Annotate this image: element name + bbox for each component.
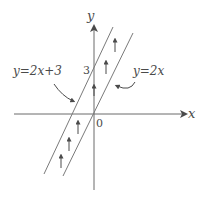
- x-axis-label: x: [188, 106, 196, 121]
- line-label-y-2x: y=2x: [132, 64, 164, 78]
- origin-label: 0: [96, 117, 103, 130]
- y-intercept-label: 3: [83, 64, 90, 77]
- pointer-arrow-left-icon: [54, 84, 73, 101]
- graph-diagram: y x 0 3 y=2x+3 y=2x: [0, 0, 208, 201]
- pointer-arrow-right-icon: [117, 82, 135, 88]
- line-y-2x-plus-3: [44, 27, 113, 174]
- line-label-y-2x-plus-3: y=2x+3: [12, 64, 62, 78]
- shift-arrows: [61, 40, 115, 168]
- y-axis-label: y: [86, 8, 95, 23]
- line-y-2x: [63, 33, 133, 176]
